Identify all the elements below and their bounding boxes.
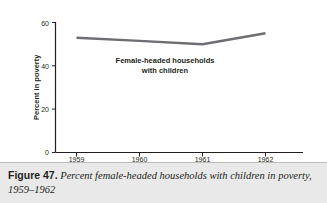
- series-annotation-line1: Female-headed households: [116, 56, 215, 65]
- y-axis-title: Percent in poverty: [32, 54, 41, 120]
- line-chart: 60 40 20 0 Percent in poverty 1959 1960 …: [0, 0, 327, 162]
- y-tick-label-0: 0: [45, 149, 49, 156]
- y-tick-label-40: 40: [41, 63, 49, 70]
- figure-number-label: Figure 47.: [8, 169, 58, 181]
- data-line-female-headed-households: [77, 33, 266, 44]
- figure-container: 60 40 20 0 Percent in poverty 1959 1960 …: [0, 0, 327, 203]
- chart-plot-area: 60 40 20 0 Percent in poverty 1959 1960 …: [0, 0, 327, 162]
- y-tick-label-20: 20: [41, 106, 49, 113]
- figure-caption-band: Figure 47. Percent female-headed househo…: [0, 162, 327, 203]
- y-tick-label-60: 60: [41, 20, 49, 27]
- series-annotation-line2: with children: [141, 66, 189, 75]
- figure-caption: Figure 47. Percent female-headed househo…: [8, 168, 319, 197]
